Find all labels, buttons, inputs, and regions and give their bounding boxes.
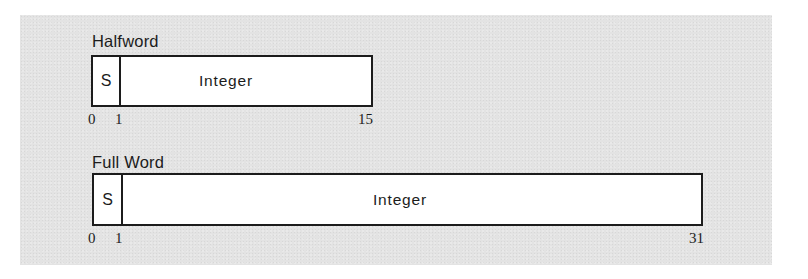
halfword-bit-1: 1 [115, 112, 123, 127]
diagram-panel [20, 15, 772, 265]
halfword-bit-0: 0 [88, 112, 96, 127]
fullword-integer-field: Integer [123, 175, 701, 224]
halfword-sign-field: S [93, 57, 121, 105]
halfword-bit-15: 15 [358, 112, 373, 127]
fullword-bit-31: 31 [689, 231, 704, 246]
fullword-box: S Integer [92, 173, 703, 226]
halfword-integer-label: Integer [199, 72, 253, 90]
fullword-title: Full Word [92, 154, 164, 171]
fullword-integer-label: Integer [373, 191, 427, 209]
halfword-box: S Integer [91, 55, 373, 107]
halfword-title: Halfword [92, 33, 159, 50]
fullword-sign-field: S [94, 175, 123, 224]
fullword-bit-1: 1 [115, 231, 123, 246]
fullword-bit-0: 0 [88, 231, 96, 246]
halfword-integer-field: Integer [121, 57, 371, 105]
